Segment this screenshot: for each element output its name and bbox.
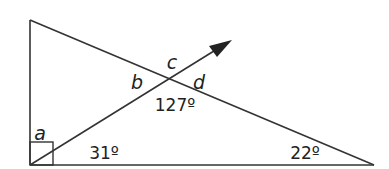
label-b: b — [131, 71, 143, 93]
arrow-head-icon — [209, 40, 232, 57]
angle-127: 127º — [155, 95, 195, 115]
angle-31: 31º — [89, 143, 119, 163]
triangle-diagram: a b c d 127º 31º 22º — [0, 0, 389, 169]
label-c: c — [167, 51, 178, 73]
angle-22: 22º — [290, 143, 320, 163]
label-d: d — [193, 71, 206, 93]
label-a: a — [34, 122, 46, 144]
